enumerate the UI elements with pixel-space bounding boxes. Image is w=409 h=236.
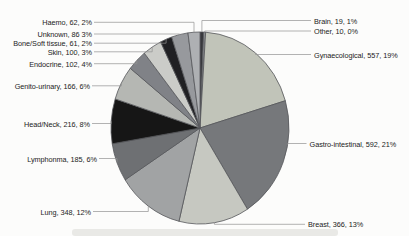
slice-label-gastro-intestinal: Gastro-intestinal, 592, 21% <box>310 139 397 148</box>
slice-label-bone-soft-tissue: Bone/Soft tissue, 61, 2% <box>13 39 92 48</box>
leader-line-genito-urinary <box>92 83 121 86</box>
slice-label-brain: Brain, 19, 1% <box>314 16 357 25</box>
leader-line-haemo <box>94 22 194 32</box>
pie-chart-figure: Brain, 19, 1%Other, 10, 0%Gynaecological… <box>0 0 409 236</box>
leader-line-unknown <box>94 34 180 35</box>
slice-label-skin: Skin, 100, 3% <box>48 47 92 56</box>
slice-label-genito-urinary: Genito-urinary, 166, 6% <box>15 81 90 90</box>
slice-label-lymphonma: Lymphonma, 185, 6% <box>27 154 97 163</box>
leader-line-gastro-intestinal <box>288 144 307 145</box>
slice-label-gynaecological: Gynaecological, 557, 19% <box>314 50 398 59</box>
leader-line-endocrine <box>94 60 137 63</box>
leader-line-lung <box>93 206 148 211</box>
scan-artifact-band <box>72 229 338 236</box>
leader-line-gynaecological <box>256 53 312 55</box>
slice-label-lung: Lung, 348, 12% <box>41 207 91 216</box>
slice-label-other: Other, 10, 0% <box>314 27 358 36</box>
leader-line-skin <box>94 47 152 52</box>
leader-line-head-neck <box>92 121 111 123</box>
slice-label-endocrine: Endocrine, 102, 4% <box>29 59 92 68</box>
slice-label-head-neck: Head/Neck, 216, 8% <box>24 119 90 128</box>
slice-label-breast: Breast, 366, 13% <box>308 220 363 229</box>
leader-line-other <box>205 31 311 32</box>
leader-line-breast <box>214 223 305 225</box>
leader-line-lymphonma <box>99 159 117 163</box>
slice-label-haemo: Haemo, 62, 2% <box>42 18 92 27</box>
slice-label-unknown: Unknown, 86 3% <box>38 30 92 39</box>
leader-line-brain <box>202 21 311 33</box>
leader-line-bone-soft-tissue <box>94 39 166 43</box>
